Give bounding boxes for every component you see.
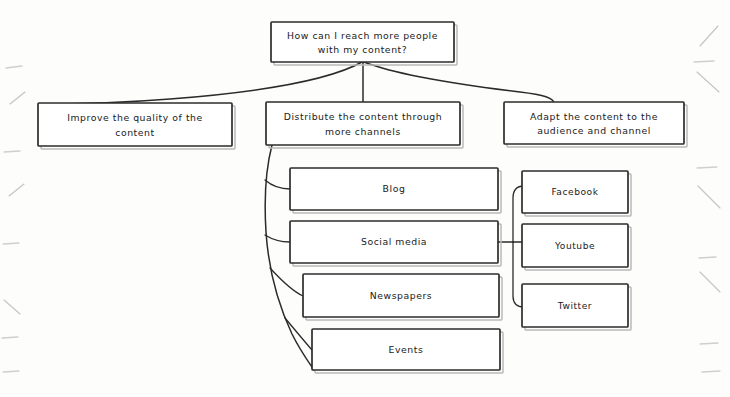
node-channel-events[interactable]: Events — [312, 329, 503, 373]
connector-trunk-to-blog — [265, 180, 290, 189]
node-distribute-line-2: more channels — [325, 126, 401, 137]
node-improve-quality-line-2: content — [115, 127, 154, 138]
node-channel-social-media[interactable]: Social media — [290, 221, 501, 266]
node-improve-quality-line-1: Improve the quality of the — [67, 112, 203, 123]
connector-root-to-improve — [40, 62, 362, 104]
tree-diagram: How can I reach more people with my cont… — [0, 0, 730, 397]
node-platform-youtube-label: Youtube — [554, 241, 595, 251]
node-platform-twitter[interactable]: Twitter — [522, 284, 631, 330]
node-platform-youtube[interactable]: Youtube — [522, 224, 631, 270]
connector-root-to-adapt — [364, 62, 554, 103]
node-root[interactable]: How can I reach more people with my cont… — [271, 22, 457, 65]
node-distribute-channels[interactable]: Distribute the content through more chan… — [266, 102, 463, 148]
node-channel-blog-label: Blog — [383, 183, 406, 194]
node-improve-quality[interactable]: Improve the quality of the content — [38, 103, 235, 149]
node-channel-newspapers[interactable]: Newspapers — [303, 274, 502, 320]
node-platform-facebook-label: Facebook — [551, 187, 598, 197]
node-adapt-line-2: audience and channel — [537, 125, 651, 136]
node-adapt-content[interactable]: Adapt the content to the audience and ch… — [504, 102, 687, 147]
node-distribute-line-1: Distribute the content through — [284, 111, 443, 122]
node-platform-twitter-label: Twitter — [557, 301, 592, 311]
node-root-line-1: How can I reach more people — [287, 30, 438, 41]
node-adapt-line-1: Adapt the content to the — [530, 111, 658, 122]
diagram-canvas: How can I reach more people with my cont… — [0, 0, 730, 397]
connector-trunk-to-newspapers — [270, 268, 303, 296]
connectors-root-to-branches — [40, 62, 554, 104]
node-channel-social-media-label: Social media — [361, 236, 427, 247]
node-channel-blog[interactable]: Blog — [290, 168, 501, 213]
node-root-line-2: with my content? — [318, 44, 408, 55]
node-channel-events-label: Events — [389, 344, 424, 355]
node-platform-facebook[interactable]: Facebook — [522, 171, 631, 216]
node-channel-newspapers-label: Newspapers — [370, 290, 433, 301]
connector-trunk-to-social-media — [265, 235, 290, 242]
